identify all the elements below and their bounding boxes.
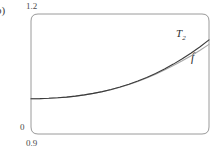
figure-panel-b: b) 1.2 0 0.9 T2 f	[0, 0, 219, 153]
plot-area	[0, 0, 219, 153]
curve-function	[31, 44, 209, 98]
curve-taylor-polynomial	[31, 40, 209, 99]
axes-frame	[31, 14, 209, 134]
